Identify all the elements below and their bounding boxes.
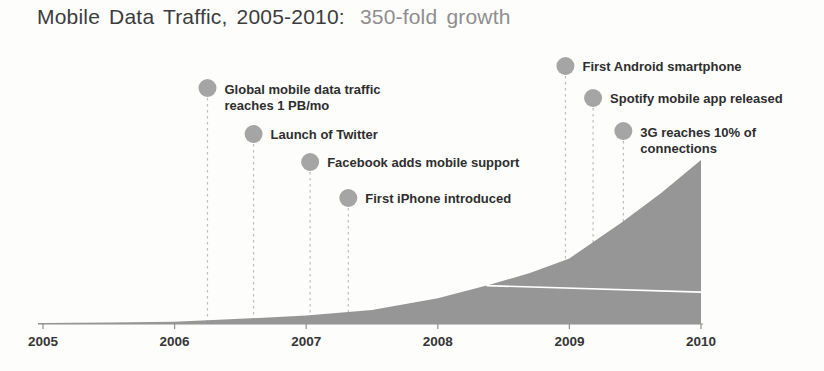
traffic-area-chart: Global mobile data trafficreaches 1 PB/m… <box>0 0 824 371</box>
milestone-dot <box>199 79 217 97</box>
milestone-label: First Android smartphone <box>582 59 741 74</box>
x-axis-label: 2006 <box>160 334 191 349</box>
traffic-area-shape <box>38 160 701 324</box>
x-axis-label: 2010 <box>686 334 716 349</box>
milestone-dot <box>301 153 319 171</box>
x-axis-label: 2009 <box>554 334 584 349</box>
milestone-label: Spotify mobile app released <box>610 91 783 106</box>
milestone-label: First iPhone introduced <box>365 191 511 206</box>
milestone-label: 3G reaches 10% ofconnections <box>640 125 756 156</box>
x-axis-label: 2008 <box>423 334 454 349</box>
x-axis-label: 2005 <box>28 334 59 349</box>
milestone-dot <box>245 125 263 143</box>
milestone-label: Launch of Twitter <box>271 127 378 142</box>
milestone-dot <box>339 189 357 207</box>
milestone-dot <box>584 89 602 107</box>
milestone-label: Global mobile data trafficreaches 1 PB/m… <box>225 82 381 113</box>
slide-chart: Mobile Data Traffic, 2005-2010: 350-fold… <box>0 0 824 371</box>
x-axis-label: 2007 <box>291 334 321 349</box>
milestone-label: Facebook adds mobile support <box>327 155 520 170</box>
milestone-dot <box>614 122 632 140</box>
milestone-dot <box>556 57 574 75</box>
